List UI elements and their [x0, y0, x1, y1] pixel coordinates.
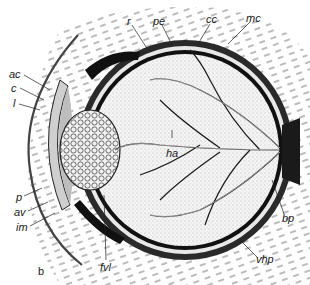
label-mc: mc	[246, 13, 261, 24]
label-vhp: vhp	[256, 254, 274, 265]
label-bp: bp	[282, 213, 294, 224]
lens	[60, 110, 120, 190]
label-im: im	[16, 222, 28, 233]
label-r: r	[127, 16, 131, 27]
label-c: c	[11, 83, 17, 94]
label-av: av	[14, 207, 26, 218]
label-l: l	[13, 98, 15, 109]
eye-diagram	[0, 0, 310, 285]
label-p: p	[16, 192, 22, 203]
label-fvl: fvl	[100, 262, 111, 273]
label-pe: pe	[153, 16, 165, 27]
label-ha: ha	[166, 148, 178, 159]
optic-nerve	[282, 118, 300, 185]
label-ac: ac	[9, 69, 21, 80]
label-cc: cc	[206, 14, 217, 25]
panel-label: b	[38, 266, 44, 277]
